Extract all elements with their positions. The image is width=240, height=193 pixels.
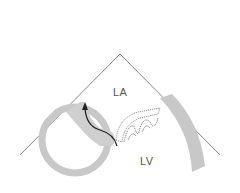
label-left-ventricle: LV bbox=[140, 155, 154, 167]
echo-diagram: LA LV bbox=[0, 0, 240, 193]
anterior-mitral-leaflet bbox=[116, 108, 160, 142]
label-left-atrium: LA bbox=[113, 86, 127, 98]
